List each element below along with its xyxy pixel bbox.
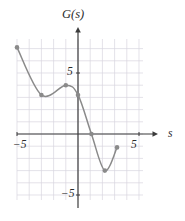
- data-point: [89, 132, 94, 137]
- y-tick-label-negative-5: −5: [61, 188, 75, 200]
- function-graph-figure: G(s) s −5 5 5 −5: [0, 0, 185, 221]
- data-point: [15, 45, 20, 50]
- y-tick-label-positive-5: 5: [67, 66, 73, 78]
- coordinate-axes: [17, 27, 158, 208]
- data-point: [39, 93, 44, 98]
- graph-canvas: [0, 0, 185, 221]
- data-point: [76, 93, 81, 98]
- data-point: [64, 83, 69, 88]
- data-point: [103, 168, 108, 173]
- grid-lines: [17, 39, 143, 200]
- x-axis-title: s: [168, 128, 172, 140]
- data-point: [115, 145, 120, 150]
- y-axis-title: G(s): [62, 8, 84, 21]
- x-tick-label-negative-5: −5: [13, 139, 27, 151]
- x-tick-label-positive-5: 5: [131, 139, 137, 151]
